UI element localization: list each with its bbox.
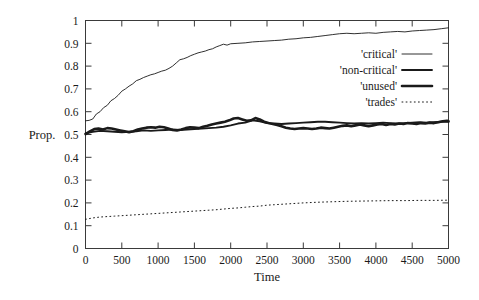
x-tick-label: 3000: [292, 254, 315, 266]
legend-label-3: 'trades': [365, 96, 397, 108]
chart-container: 00.10.20.30.40.50.60.70.80.9105001000150…: [0, 0, 479, 300]
y-tick-label: 1: [73, 15, 79, 27]
legend-label-2: 'unused': [360, 80, 397, 92]
x-axis-title: Time: [254, 270, 280, 284]
y-axis-title: Prop.: [29, 128, 56, 142]
chart-render-layer: 00.10.20.30.40.50.60.70.80.9105001000150…: [29, 15, 461, 284]
y-tick-label: 0: [73, 243, 79, 255]
y-tick-label: 0.5: [64, 129, 79, 141]
y-tick-label: 0.8: [64, 60, 79, 72]
y-tick-label: 0.7: [64, 83, 79, 95]
x-tick-label: 1500: [183, 254, 206, 266]
line-chart: 00.10.20.30.40.50.60.70.80.9105001000150…: [0, 0, 479, 300]
legend-label-0: 'critical': [361, 48, 397, 60]
y-tick-label: 0.6: [64, 106, 79, 118]
x-tick-label: 2000: [219, 254, 242, 266]
x-tick-label: 1000: [147, 254, 170, 266]
y-tick-label: 0.3: [64, 174, 79, 186]
x-tick-label: 5000: [437, 254, 460, 266]
y-tick-label: 0.2: [64, 197, 79, 209]
y-tick-label: 0.4: [64, 152, 79, 164]
x-tick-label: 2500: [256, 254, 279, 266]
x-tick-label: 500: [113, 254, 131, 266]
x-tick-label: 0: [83, 254, 89, 266]
series-line-3: [86, 200, 449, 219]
x-tick-label: 3500: [328, 254, 351, 266]
y-tick-label: 0.9: [64, 38, 79, 50]
y-tick-label: 0.1: [64, 220, 79, 232]
legend-label-1: 'non-critical': [340, 64, 397, 76]
x-tick-label: 4000: [364, 254, 387, 266]
x-tick-label: 4500: [401, 254, 424, 266]
